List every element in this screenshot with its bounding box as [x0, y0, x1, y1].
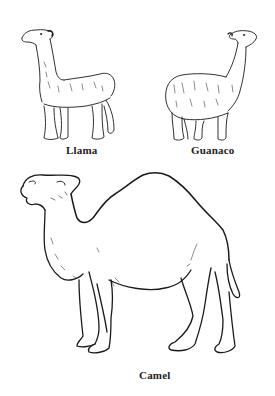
llama-label: Llama — [66, 144, 98, 156]
guanaco-label: Guanaco — [191, 144, 235, 156]
guanaco-illustration — [160, 25, 265, 143]
llama-icon — [14, 22, 124, 144]
camel-icon — [15, 168, 250, 368]
llama-illustration — [14, 22, 124, 144]
camel-label: Camel — [139, 369, 171, 381]
guanaco-icon — [160, 25, 265, 143]
camel-illustration — [15, 168, 250, 368]
